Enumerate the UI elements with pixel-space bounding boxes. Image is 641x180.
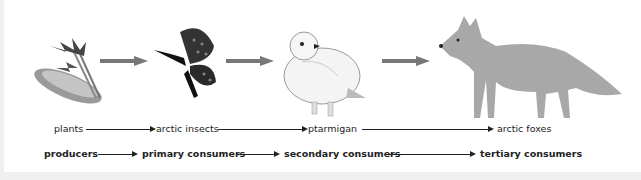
- butterfly-icon: [150, 26, 220, 100]
- arrow-icon: [226, 56, 274, 66]
- arrow-line: [362, 129, 492, 130]
- label-arctic-insects: arctic insects: [156, 123, 219, 134]
- arrow-line: [388, 154, 474, 155]
- label-producers: producers: [44, 148, 98, 159]
- arrow-line: [218, 129, 306, 130]
- label-plants: plants: [54, 123, 83, 134]
- arrow-icon: [382, 56, 430, 66]
- arrow-icon: [100, 56, 148, 66]
- label-primary-consumers: primary consumers: [142, 148, 245, 159]
- label-secondary-consumers: secondary consumers: [284, 148, 400, 159]
- label-ptarmigan: ptarmigan: [308, 123, 357, 134]
- ptarmigan-icon: [276, 18, 366, 118]
- food-chain-diagram: plants arctic insects ptarmigan arctic f…: [4, 0, 641, 172]
- arrow-line: [98, 154, 136, 155]
- fox-icon: [436, 12, 626, 120]
- arrow-line: [236, 154, 278, 155]
- arrow-line: [86, 129, 154, 130]
- plant-icon: [30, 34, 110, 106]
- label-tertiary-consumers: tertiary consumers: [480, 148, 582, 159]
- label-arctic-foxes: arctic foxes: [497, 123, 551, 134]
